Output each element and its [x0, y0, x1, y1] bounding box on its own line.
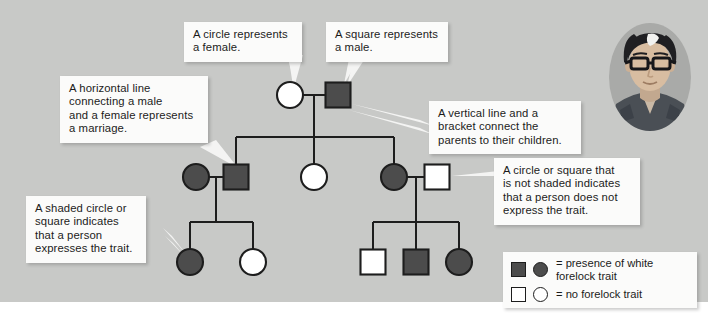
- callout-line: connecting a male: [69, 95, 199, 108]
- callout-line: a male.: [335, 41, 439, 54]
- callout-line: A circle or square that: [503, 164, 631, 177]
- pedigree-symbol-g3-child-3: [361, 250, 386, 275]
- pedigree-figure: A circle represents a female. A square r…: [0, 0, 708, 330]
- legend-label-unaffected: = no forelock trait: [556, 288, 642, 301]
- pedigree-symbol-g3-child-4: [404, 250, 429, 275]
- callout-shaded: A shaded circle or square indicates that…: [26, 196, 146, 263]
- filled-circle-icon: [533, 262, 548, 277]
- callout-line: that a person: [35, 229, 137, 242]
- legend: = presence of white forelock trait = no …: [503, 252, 697, 308]
- pedigree-symbol-g2-spouse-left: [183, 164, 209, 190]
- pedigree-symbol-g3-child-5: [446, 249, 472, 275]
- legend-row-affected: = presence of white forelock trait: [511, 259, 689, 280]
- pedigree-symbol-g3-child-2: [240, 249, 266, 275]
- callout-line: bracket connect the: [438, 120, 572, 133]
- callout-line: expresses the trait.: [35, 242, 137, 255]
- filled-square-icon: [511, 262, 526, 277]
- open-square-icon: [511, 287, 526, 302]
- callout-line: A square represents: [335, 28, 439, 41]
- callout-line: A shaded circle or: [35, 202, 137, 215]
- callout-line: express the trait.: [503, 204, 631, 217]
- callout-line: parents to their children.: [438, 134, 572, 147]
- callout-line: square indicates: [35, 215, 137, 228]
- callout-circle-female: A circle represents a female.: [184, 22, 302, 62]
- callout-line: that a person does not: [503, 191, 631, 204]
- pedigree-symbol-g1-father: [326, 83, 351, 108]
- pedigree-symbol-g2-spouse-right: [425, 165, 450, 190]
- callout-line: A circle represents: [193, 28, 293, 41]
- callout-line: A horizontal line: [69, 82, 199, 95]
- pedigree-symbol-g3-child-1: [177, 249, 203, 275]
- callout-not-shaded: A circle or square that is not shaded in…: [494, 158, 640, 225]
- pedigree-symbol-g1-mother: [277, 82, 303, 108]
- pedigree-symbol-g2-daughter-right: [381, 164, 407, 190]
- callout-square-male: A square represents a male.: [326, 22, 448, 62]
- callout-marriage-line: A horizontal line connecting a male and …: [60, 76, 208, 143]
- callout-line: and a female represents: [69, 109, 199, 122]
- callout-line: is not shaded indicates: [503, 177, 631, 190]
- open-circle-icon: [533, 287, 548, 302]
- callout-line: a female.: [193, 41, 293, 54]
- legend-label-affected: = presence of white forelock trait: [556, 257, 653, 282]
- callout-vertical-bracket: A vertical line and a bracket connect th…: [429, 101, 581, 154]
- callout-line: a marriage.: [69, 122, 199, 135]
- pedigree-symbol-g2-daughter-mid: [301, 164, 327, 190]
- legend-row-unaffected: = no forelock trait: [511, 284, 689, 304]
- pedigree-symbol-g2-son: [224, 165, 249, 190]
- person-photo: [604, 18, 696, 136]
- callout-line: A vertical line and a: [438, 107, 572, 120]
